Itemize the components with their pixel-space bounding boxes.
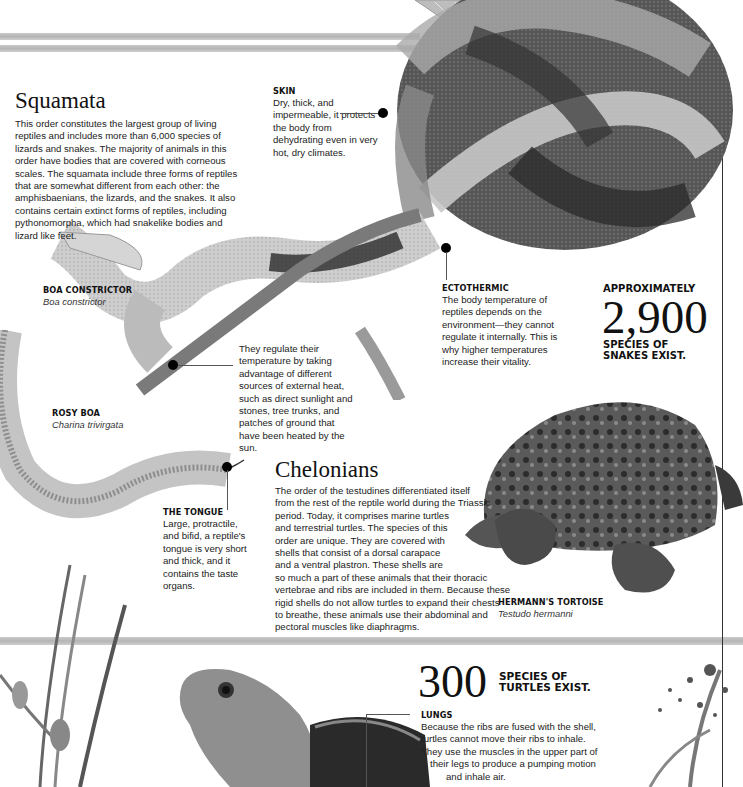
chelonians-line: The order of the testudines differentiat… [275,485,515,497]
plant-flower-image [610,650,743,787]
tongue-callout: THE TONGUE Large, protractile, and bifid… [163,507,251,592]
snake-stat-number: 2,900 [602,295,723,339]
lungs-line: They use the muscles in the upper part o… [421,746,621,758]
ectothermic-callout: ECTOTHERMIC The body temperature of rept… [442,283,567,368]
skin-marker-dot [378,108,388,118]
lungs-leader-line-v [366,714,367,787]
chelonians-section: Chelonians The order of the testudines d… [275,457,515,634]
tortoise-caption: HERMANN'S TORTOISE Testudo hermanni [498,597,628,620]
plant-stems-image [0,555,140,787]
heat-leader-line [178,365,233,366]
tortoise-scientific: Testudo hermanni [498,608,628,620]
boa-constrictor-caption: BOA CONSTRICTOR Boa constrictor [43,285,163,308]
turtle-species-stat: 300 SPECIES OF TURTLES EXIST. [418,660,618,710]
snake-species-stat: APPROXIMATELY 2,900 SPECIES OF SNAKES EX… [603,283,723,361]
chelonians-line: from the rest of the reptile world durin… [275,497,515,509]
squamata-title: Squamata [15,88,245,114]
squamata-body: This order constitutes the largest group… [15,118,245,242]
skin-text: Dry, thick, and impermeable, it protects… [273,97,378,159]
turtle-head-image [170,655,430,787]
tongue-leader-line [227,470,228,510]
ectothermic-label: ECTOTHERMIC [442,283,567,294]
chelonians-line: period. Today, it comprises marine turtl… [275,510,515,522]
heat-text: They regulate their temperature by takin… [239,343,354,455]
boa-scientific: Boa constrictor [43,296,163,308]
skin-leader-line [340,113,380,114]
rosy-boa-scientific: Charina trivirgata [52,419,172,431]
squamata-section: Squamata This order constitutes the larg… [15,88,245,242]
snake-stat-suffix-2: SNAKES EXIST. [603,350,723,361]
lungs-callout: LUNGS Because the ribs are fused with th… [421,710,621,783]
lungs-label: LUNGS [421,710,621,721]
chelonians-line: rigid shells do not allow turtles to exp… [275,597,515,609]
tortoise-name: HERMANN'S TORTOISE [498,597,628,608]
rosy-boa-caption: ROSY BOA Charina trivirgata [52,408,172,431]
chelonians-line: and terrestrial turtles. The species of … [275,522,515,534]
rosy-boa-name: ROSY BOA [52,408,172,419]
lungs-line: Because the ribs are fused with the shel… [421,721,621,733]
tongue-label: THE TONGUE [163,507,251,518]
chelonians-line: and a ventral plastron. These shells are [275,559,515,571]
lungs-line: and inhale air. [421,771,621,783]
chelonians-line: shells that consist of a dorsal carapace [275,547,515,559]
tongue-text: Large, protractile, and bifid, a reptile… [163,518,251,592]
chelonians-line: to breathe, these animals use their abdo… [275,609,515,621]
chelonians-line: vertebrae and ribs are included in them.… [275,584,515,596]
ectothermic-leader-line [446,252,447,280]
skin-label: SKIN [273,86,378,97]
heat-marker-dot [168,360,178,370]
turtle-stat-suffix-2: TURTLES EXIST. [499,682,591,693]
lungs-leader-line-h [366,714,410,715]
lungs-line: their legs to produce a pumping motion [421,758,621,770]
chelonians-title: Chelonians [275,457,515,483]
chelonians-line: order are unique. They are covered with [275,535,515,547]
chelonians-body: The order of the testudines differentiat… [275,485,515,634]
ectothermic-text: The body temperature of reptiles depends… [442,294,567,368]
turtle-stat-number: 300 [418,660,487,704]
chelonians-line: pectoral muscles like diaphragms. [275,621,515,633]
skin-callout: SKIN Dry, thick, and impermeable, it pro… [273,86,378,159]
lungs-line: turtles cannot move their ribs to inhale… [421,733,621,745]
heat-callout: They regulate their temperature by takin… [239,343,354,455]
boa-name: BOA CONSTRICTOR [43,285,163,296]
chelonians-line: so much a part of these animals that the… [275,572,515,584]
